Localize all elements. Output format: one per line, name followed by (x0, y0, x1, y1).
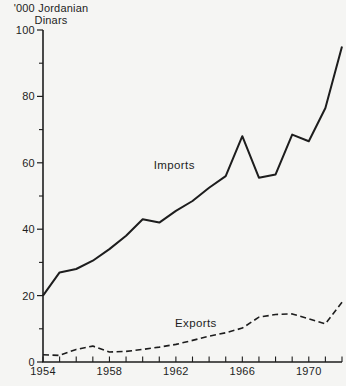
chart-title: '000 Jordanian Dinars (0, 2, 102, 26)
x-tick-label: 1962 (163, 365, 189, 377)
y-tick-label: 40 (22, 223, 35, 235)
chart-canvas: 02040608010019541958196219661970ImportsE… (0, 0, 346, 386)
imports-label: Imports (154, 159, 195, 171)
y-tick-label: 80 (22, 90, 35, 102)
y-tick-label: 60 (22, 157, 35, 169)
chart-title-line-1: '000 Jordanian (0, 2, 102, 14)
y-tick-label: 20 (22, 290, 35, 302)
x-tick-label: 1958 (97, 365, 123, 377)
chart-figure: '000 Jordanian Dinars 020406080100195419… (0, 0, 346, 386)
chart-title-line-2: Dinars (0, 14, 102, 26)
x-tick-label: 1970 (296, 365, 322, 377)
exports-label: Exports (175, 317, 217, 329)
x-tick-label: 1966 (229, 365, 255, 377)
x-tick-label: 1954 (30, 365, 56, 377)
